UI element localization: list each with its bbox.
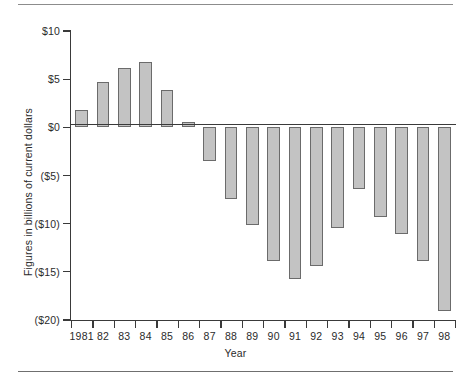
- x-axis-tick-label: 98: [438, 330, 450, 342]
- bar: [246, 127, 259, 224]
- x-axis-tick-label: 83: [118, 330, 130, 342]
- bar: [331, 127, 344, 227]
- x-axis-tick-label: 89: [246, 330, 258, 342]
- x-axis-tick-label: 94: [353, 330, 365, 342]
- chart-page: Figures in billions of current dollars Y…: [0, 0, 471, 378]
- x-axis-tick-label: 96: [396, 330, 408, 342]
- x-axis-tick-label: 93: [332, 330, 344, 342]
- x-axis-tick-label: 1981: [70, 330, 94, 342]
- x-axis-tick: [284, 321, 285, 328]
- x-axis-tick: [178, 321, 179, 328]
- x-axis-tick-label: 91: [289, 330, 301, 342]
- bar: [374, 127, 387, 217]
- zero-baseline: [71, 124, 456, 125]
- y-axis-tick: [63, 79, 71, 80]
- bar: [267, 127, 280, 261]
- y-axis-tick: [63, 127, 71, 128]
- y-axis-tick: [63, 223, 71, 224]
- x-axis-tick: [348, 321, 349, 328]
- bar-chart-figure: Figures in billions of current dollars Y…: [0, 0, 471, 378]
- x-axis-tick-label: 85: [161, 330, 173, 342]
- x-axis-title: Year: [0, 347, 471, 359]
- x-axis-tick: [370, 321, 371, 328]
- bar: [289, 127, 302, 278]
- y-axis-tick-label: ($20): [34, 314, 60, 326]
- x-axis-tick-label: 95: [374, 330, 386, 342]
- bar: [225, 127, 238, 198]
- bar: [203, 127, 216, 161]
- y-axis-title: Figures in billions of current dollars: [22, 92, 34, 292]
- x-axis-tick-label: 88: [225, 330, 237, 342]
- bar: [310, 127, 323, 266]
- x-axis-tick-label: 92: [310, 330, 322, 342]
- bar: [118, 68, 131, 128]
- x-axis-tick: [135, 321, 136, 328]
- x-axis-tick: [327, 321, 328, 328]
- x-axis-tick: [242, 321, 243, 328]
- bar: [97, 82, 110, 127]
- y-axis-tick: [63, 30, 71, 31]
- x-axis-tick: [220, 321, 221, 328]
- x-axis-tick: [263, 321, 264, 328]
- y-axis-tick-label: ($15): [34, 266, 60, 278]
- y-axis-tick: [63, 319, 71, 320]
- bar: [395, 127, 408, 234]
- bar: [139, 62, 152, 128]
- x-axis-tick: [71, 321, 72, 328]
- y-axis-tick-label: ($5): [41, 170, 60, 182]
- x-axis-tick: [92, 321, 93, 328]
- x-axis-tick: [455, 321, 456, 328]
- y-axis-tick-label: ($10): [34, 218, 60, 230]
- bar: [161, 90, 174, 128]
- y-axis-tick: [63, 271, 71, 272]
- x-axis-tick-label: 86: [182, 330, 194, 342]
- bar: [438, 127, 451, 311]
- x-axis-tick: [114, 321, 115, 328]
- y-axis-tick-label: $5: [48, 73, 60, 85]
- x-axis-tick-label: 84: [140, 330, 152, 342]
- y-axis-tick-label: $0: [48, 121, 60, 133]
- bar: [353, 127, 366, 189]
- x-axis-tick: [306, 321, 307, 328]
- x-axis-tick: [156, 321, 157, 328]
- x-axis-tick: [391, 321, 392, 328]
- x-axis-tick-label: 87: [204, 330, 216, 342]
- bar: [417, 127, 430, 261]
- x-axis-tick-label: 90: [268, 330, 280, 342]
- x-axis-tick-label: 82: [97, 330, 109, 342]
- y-axis-tick: [63, 175, 71, 176]
- y-axis-tick-label: $10: [42, 25, 60, 37]
- x-axis-tick: [412, 321, 413, 328]
- x-axis-tick: [199, 321, 200, 328]
- x-axis-tick-label: 97: [417, 330, 429, 342]
- x-axis-tick: [434, 321, 435, 328]
